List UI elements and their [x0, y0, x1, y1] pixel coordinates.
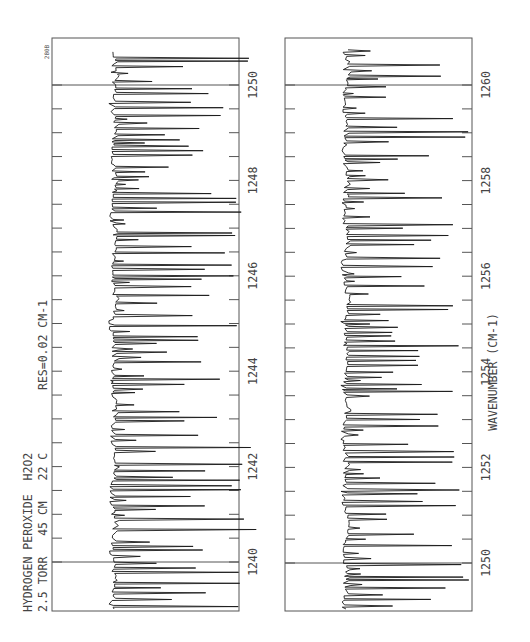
wavenumber-axis-label: WAVENUMBER (CM-1)	[486, 313, 500, 431]
tick-label: 1244	[246, 357, 260, 385]
tick-label: 1260	[479, 71, 493, 99]
tick-label: 1256	[479, 262, 493, 290]
resolution-label: RES=0.02 CM-1	[36, 300, 50, 390]
tick-label: 1246	[246, 262, 260, 290]
title-line-1: HYDROGEN PEROXIDE H2O2	[21, 453, 35, 612]
spectrum-trace	[341, 50, 469, 609]
spectrum-trace	[109, 52, 256, 609]
spectrum-figure: 124012421244124612481250 125012521254125…	[0, 0, 530, 642]
tick-label: 1250	[479, 549, 493, 577]
spectrum-plot-canvas: 124012421244124612481250 125012521254125…	[0, 0, 530, 642]
tick-label: 1242	[246, 453, 260, 481]
title-line-2: 2.5 TORR 45 CM 22 C	[36, 453, 50, 612]
tick-label: 1248	[246, 166, 260, 194]
figure-id-label: 280B	[43, 44, 50, 59]
tick-label: 1240	[246, 548, 260, 576]
left-spectrum-panel: 124012421244124612481250	[52, 38, 260, 611]
right-spectrum-panel: 125012521254125612581260	[285, 38, 493, 611]
tick-label: 1258	[479, 167, 493, 195]
plot-frame	[285, 38, 472, 611]
tick-label: 1250	[246, 71, 260, 99]
plot-frame	[52, 38, 239, 611]
tick-label: 1252	[479, 454, 493, 482]
